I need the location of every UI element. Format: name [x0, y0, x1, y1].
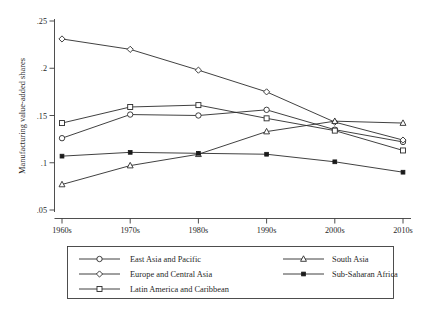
x-axis: 1960s1970s1980s1990s2000s2010s: [52, 219, 413, 236]
data-point-marker: [401, 148, 406, 153]
legend-label: Europe and Central Asia: [130, 270, 212, 279]
series-europe-and-central-asia: [59, 36, 406, 143]
y-axis-ticks: .05.1.15.2.25: [37, 17, 55, 215]
data-point-marker: [401, 170, 405, 174]
data-point-marker: [128, 104, 133, 109]
data-point-marker: [128, 112, 133, 117]
line-chart: .05.1.15.2.25 Manufacturing value-added …: [0, 0, 429, 310]
data-point-marker: [60, 154, 64, 158]
series-polyline: [62, 110, 403, 142]
data-point-marker: [60, 121, 65, 126]
data-point-marker: [128, 150, 132, 154]
data-point-marker: [264, 116, 269, 121]
x-tick-label: 2000s: [325, 226, 345, 235]
x-tick-label: 1970s: [120, 226, 140, 235]
data-point-marker: [59, 36, 65, 42]
y-tick-label: .1: [41, 159, 47, 168]
x-tick-label: 1960s: [52, 226, 72, 235]
series-south-asia: [59, 118, 406, 187]
data-point-marker: [264, 107, 269, 112]
series-polyline: [62, 121, 403, 184]
y-tick-label: .2: [41, 64, 47, 73]
data-point-marker: [195, 67, 201, 73]
data-point-marker: [333, 160, 337, 164]
data-point-marker: [197, 151, 201, 155]
series-polyline: [62, 152, 403, 172]
x-tick-label: 1980s: [189, 226, 209, 235]
series-polyline: [62, 39, 403, 140]
x-axis-ticks: 1960s1970s1980s1990s2000s2010s: [52, 219, 413, 236]
y-tick-label: .05: [37, 206, 47, 215]
y-tick-label: .15: [37, 112, 47, 121]
series-latin-america-and-caribbean: [60, 103, 406, 153]
y-axis: .05.1.15.2.25 Manufacturing value-added …: [18, 17, 55, 215]
series-layer: [59, 36, 406, 187]
legend: East Asia and PacificEurope and Central …: [68, 247, 399, 299]
data-point-marker: [97, 256, 102, 261]
legend-label: Sub-Saharan Africa: [332, 270, 398, 279]
data-point-marker: [332, 128, 337, 133]
data-point-marker: [127, 46, 133, 52]
data-point-marker: [264, 89, 270, 95]
series-east-asia-and-pacific: [59, 107, 405, 145]
data-point-marker: [265, 152, 269, 156]
x-tick-label: 2010s: [393, 226, 413, 235]
data-point-marker: [59, 135, 64, 140]
legend-label: East Asia and Pacific: [130, 255, 201, 264]
y-axis-title: Manufacturing value-added shares: [18, 58, 27, 174]
data-point-marker: [97, 287, 102, 292]
data-point-marker: [196, 113, 201, 118]
y-tick-label: .25: [37, 17, 47, 26]
data-point-marker: [196, 103, 201, 108]
legend-label: Latin America and Caribbean: [130, 285, 230, 294]
data-point-marker: [302, 272, 306, 276]
legend-label: South Asia: [332, 255, 369, 264]
series-polyline: [62, 105, 403, 150]
x-tick-label: 1990s: [257, 226, 277, 235]
chart-figure: .05.1.15.2.25 Manufacturing value-added …: [0, 0, 429, 310]
